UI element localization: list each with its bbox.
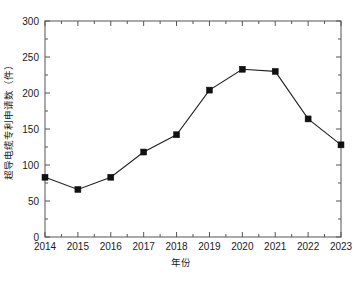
series-line-patent-applications [45,69,341,189]
y-tick-label-group: 050100150200250300 [22,16,39,243]
x-tick-label: 2015 [67,241,90,252]
x-tick-label: 2020 [231,241,254,252]
tick-mark-group [45,21,341,237]
x-tick-label: 2016 [100,241,123,252]
data-point-marker [272,68,278,74]
data-point-marker [206,87,212,93]
data-point-marker [239,66,245,72]
x-axis-title: 年份 [0,255,362,269]
y-tick-label: 50 [28,196,40,207]
y-tick-label: 250 [22,52,39,63]
x-tick-label-group: 2014201520162017201820192020202120222023 [34,241,353,252]
x-tick-label: 2017 [133,241,156,252]
axis-frame [45,21,341,237]
x-tick-label: 2022 [297,241,320,252]
data-point-marker [174,132,180,138]
y-tick-label: 300 [22,16,39,27]
y-tick-label: 200 [22,88,39,99]
chart-figure: 超导电缆专利申请数（件） 050100150200250300 20142015… [0,0,362,282]
data-point-marker [338,142,344,148]
x-tick-label: 2023 [330,241,353,252]
x-tick-label: 2018 [165,241,188,252]
data-point-marker [141,149,147,155]
data-point-marker [75,186,81,192]
y-tick-label: 150 [22,124,39,135]
data-point-marker [108,174,114,180]
data-point-marker [42,174,48,180]
x-tick-label: 2021 [264,241,287,252]
y-tick-label: 100 [22,160,39,171]
x-tick-label: 2014 [34,241,57,252]
series-marker-group [42,66,344,192]
data-point-marker [305,116,311,122]
chart-plot-area: 050100150200250300 201420152016201720182… [0,0,362,282]
x-tick-label: 2019 [198,241,221,252]
